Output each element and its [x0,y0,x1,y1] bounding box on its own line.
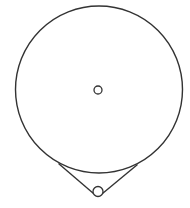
pulley-diagram [0,0,190,208]
belt-line-left [59,164,94,194]
small-pulley-circle [93,187,103,197]
belt-line-right [103,165,138,194]
large-pulley-circle [16,6,183,173]
center-hole-circle [94,86,102,94]
